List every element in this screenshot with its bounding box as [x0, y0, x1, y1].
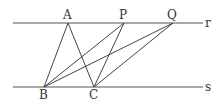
label-a: A: [62, 8, 72, 22]
label-p: P: [119, 8, 127, 22]
label-s: s: [205, 80, 211, 94]
segment-q-b: [44, 23, 173, 87]
label-c: C: [89, 88, 98, 101]
geometry-diagram: A P Q r B C s: [0, 0, 221, 101]
label-q: Q: [167, 8, 177, 22]
segment-q-c: [94, 23, 173, 87]
label-r: r: [205, 16, 211, 30]
segment-a-c: [68, 23, 94, 87]
label-b: B: [39, 88, 48, 101]
